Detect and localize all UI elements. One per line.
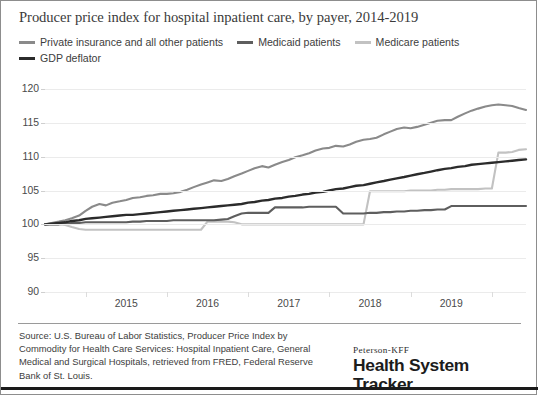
y-axis-labels: 9095100105110115120 bbox=[1, 89, 39, 292]
x-tick-label: 2016 bbox=[196, 298, 219, 309]
x-axis: 20152016201720182019 bbox=[45, 292, 526, 314]
series-line bbox=[45, 159, 526, 224]
x-tick-separator bbox=[329, 292, 330, 297]
y-tick-mark bbox=[41, 123, 45, 124]
y-tick-label: 110 bbox=[5, 152, 39, 162]
legend-swatch-private-insurance bbox=[19, 41, 35, 44]
legend-swatch-medicare bbox=[355, 41, 371, 44]
legend-row: Private insurance and all other patients… bbox=[19, 34, 524, 50]
legend-item[interactable]: Private insurance and all other patients bbox=[19, 36, 223, 48]
legend-swatch-medicaid bbox=[237, 41, 253, 44]
x-tick-separator bbox=[411, 292, 412, 297]
y-tick-mark bbox=[41, 89, 45, 90]
y-tick-label: 90 bbox=[5, 287, 39, 297]
bottom-rule bbox=[1, 387, 538, 390]
legend-label: Medicaid patients bbox=[258, 36, 340, 48]
x-tick-label: 2017 bbox=[277, 298, 300, 309]
legend-label: GDP deflator bbox=[40, 52, 101, 64]
logo-kicker: Peterson-KFF bbox=[353, 345, 523, 355]
x-tick-label: 2019 bbox=[440, 298, 463, 309]
chart-legend: Private insurance and all other patients… bbox=[19, 34, 524, 66]
legend-item[interactable]: Medicare patients bbox=[355, 36, 460, 48]
legend-label: Medicare patients bbox=[376, 36, 460, 48]
x-tick-separator bbox=[167, 292, 168, 297]
source-note: Source: U.S. Bureau of Labor Statistics,… bbox=[19, 329, 329, 382]
y-tick-label: 100 bbox=[5, 219, 39, 229]
y-tick-mark bbox=[41, 224, 45, 225]
gridline bbox=[45, 123, 526, 124]
legend-item[interactable]: Medicaid patients bbox=[237, 36, 340, 48]
gridline bbox=[45, 89, 526, 90]
legend-row: GDP deflator bbox=[19, 50, 524, 66]
y-tick-mark bbox=[41, 191, 45, 192]
legend-label: Private insurance and all other patients bbox=[40, 36, 223, 48]
x-tick-separator bbox=[492, 292, 493, 297]
gridline bbox=[45, 157, 526, 158]
legend-swatch-gdp-deflator bbox=[19, 57, 35, 60]
x-tick-separator bbox=[86, 292, 87, 297]
gridline bbox=[45, 258, 526, 259]
y-tick-label: 95 bbox=[5, 253, 39, 263]
y-tick-mark bbox=[41, 157, 45, 158]
chart-title: Producer price index for hospital inpati… bbox=[19, 9, 524, 26]
y-tick-label: 115 bbox=[5, 118, 39, 128]
y-tick-label: 120 bbox=[5, 84, 39, 94]
x-tick-label: 2015 bbox=[115, 298, 138, 309]
footer-divider bbox=[18, 323, 521, 324]
y-tick-label: 105 bbox=[5, 186, 39, 196]
plot-area bbox=[45, 89, 526, 292]
legend-item[interactable]: GDP deflator bbox=[19, 52, 101, 64]
x-tick-label: 2018 bbox=[358, 298, 381, 309]
gridline bbox=[45, 224, 526, 225]
gridline bbox=[45, 191, 526, 192]
y-tick-mark bbox=[41, 258, 45, 259]
x-tick-separator bbox=[248, 292, 249, 297]
